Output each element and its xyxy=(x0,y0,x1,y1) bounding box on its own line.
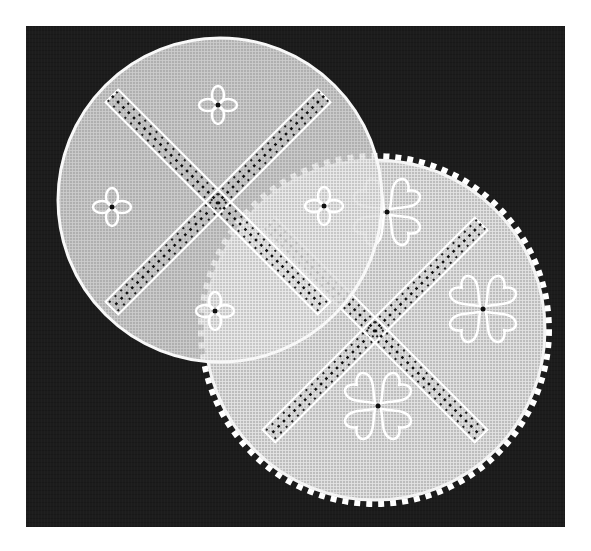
photograph xyxy=(26,26,565,527)
doilies-illustration xyxy=(26,26,565,527)
plain-edge-doily xyxy=(58,38,382,362)
